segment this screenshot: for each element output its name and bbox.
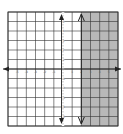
svg-text:-5: -5 [62,115,65,119]
svg-text:4: 4 [63,29,65,33]
svg-text:-2: -2 [62,86,65,90]
svg-text:3: 3 [90,70,92,74]
svg-text:1: 1 [63,58,65,62]
inequality-graph: -5-4-3-2-112345-5-4-3-2-112345 [0,0,123,134]
svg-text:2: 2 [63,48,65,52]
svg-text:-3: -3 [62,96,65,100]
svg-text:-4: -4 [25,70,28,74]
svg-text:5: 5 [63,20,65,24]
svg-text:-4: -4 [62,105,65,109]
svg-text:1: 1 [71,70,73,74]
svg-text:-5: -5 [16,70,19,74]
svg-text:5: 5 [108,70,110,74]
svg-text:3: 3 [63,39,65,43]
svg-text:-1: -1 [62,77,65,81]
svg-text:4: 4 [99,70,101,74]
svg-text:-3: -3 [34,70,37,74]
svg-text:-1: -1 [52,70,55,74]
svg-text:-2: -2 [43,70,46,74]
